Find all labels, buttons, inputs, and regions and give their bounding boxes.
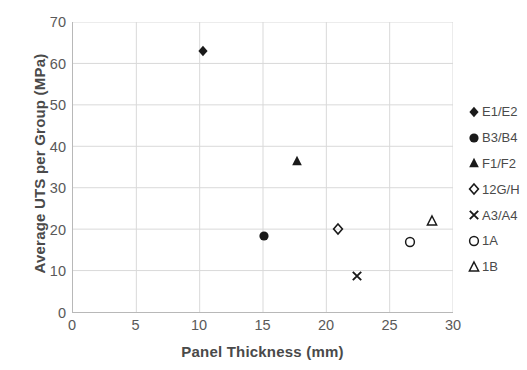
legend-item-label: 1A — [482, 233, 498, 248]
y-axis-title: Average UTS per Group (MPa) — [31, 14, 48, 314]
x-axis-tick-label: 0 — [68, 318, 76, 333]
x-axis-tick-label: 10 — [191, 318, 207, 333]
cross-x-icon — [466, 208, 481, 223]
legend-item-label: 1B — [482, 259, 498, 274]
plot-area — [72, 22, 453, 313]
legend-item-label: 12G/H — [482, 182, 520, 197]
open-triangle-icon — [466, 259, 481, 274]
filled-triangle-icon — [466, 156, 481, 171]
x-axis-tick-label: 20 — [318, 318, 334, 333]
legend-item-1b[interactable]: 1B — [466, 254, 527, 280]
x-axis-tick-label: 5 — [131, 318, 139, 333]
legend-item-label: E1/E2 — [482, 104, 517, 119]
x-axis-tick-label: 25 — [381, 318, 397, 333]
filled-diamond-icon — [466, 104, 481, 119]
x-axis-tick-labels: 051015202530 — [72, 318, 453, 338]
x-axis-tick-label: 15 — [254, 318, 270, 333]
filled-circle-icon — [466, 130, 481, 145]
legend-item-b3-b4[interactable]: B3/B4 — [466, 125, 527, 151]
legend-item-a3-a4[interactable]: A3/A4 — [466, 202, 527, 228]
legend-item-f1-f2[interactable]: F1/F2 — [466, 151, 527, 177]
legend-item-label: B3/B4 — [482, 130, 517, 145]
x-axis-title: Panel Thickness (mm) — [72, 343, 453, 360]
legend-item-label: A3/A4 — [482, 208, 517, 223]
legend-item-e1-e2[interactable]: E1/E2 — [466, 99, 527, 125]
legend-item-1a[interactable]: 1A — [466, 228, 527, 254]
open-circle-icon — [466, 233, 481, 248]
data-points-layer — [73, 22, 453, 312]
legend-item-label: F1/F2 — [482, 156, 516, 171]
legend-item-12g-h[interactable]: 12G/H — [466, 176, 527, 202]
x-axis-tick-label: 30 — [445, 318, 461, 333]
open-diamond-icon — [466, 182, 481, 197]
chart-legend: E1/E2 B3/B4 F1/F2 12G/H A3/A4 1A 1B — [466, 99, 527, 280]
scatter-chart: 706050403020100 051015202530 Panel Thick… — [0, 0, 527, 370]
